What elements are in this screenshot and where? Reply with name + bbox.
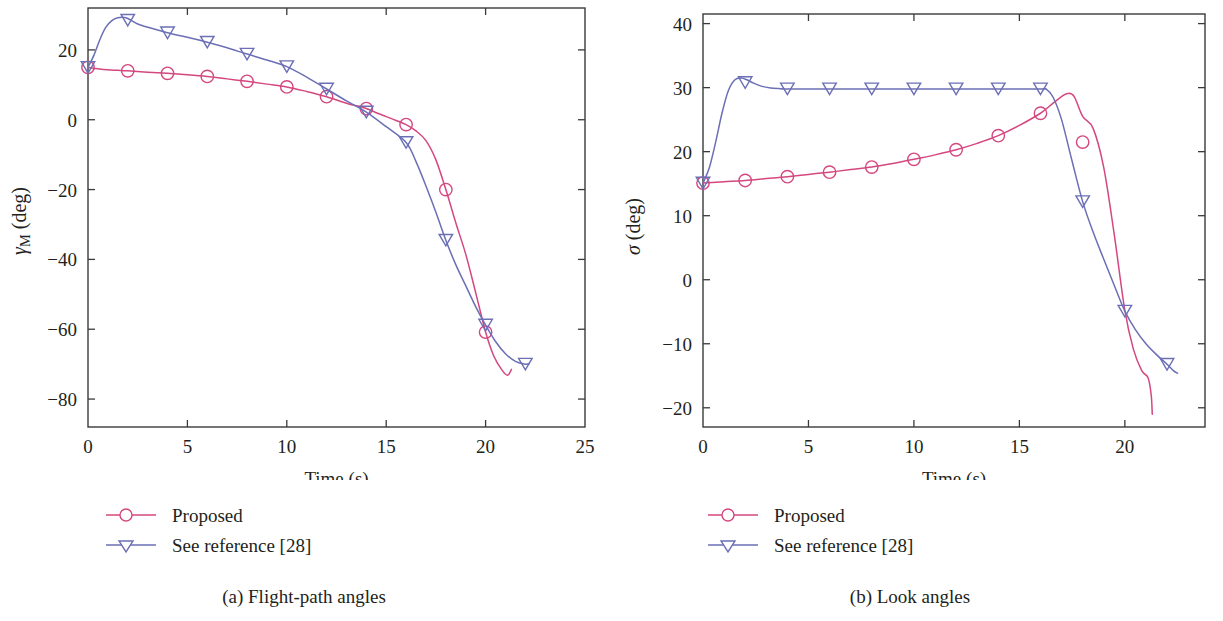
x-tick-label: 0 (698, 436, 708, 457)
data-marker-triangle (121, 14, 134, 25)
series-line (703, 78, 1178, 373)
y-tick-label: −10 (662, 334, 692, 355)
y-tick-label: 40 (673, 14, 692, 35)
legend-a: Proposed See reference [28] (104, 500, 311, 560)
legend-swatch-triangle-a (104, 533, 158, 557)
x-tick-label: 20 (1115, 436, 1134, 457)
y-axis-subscript-a: M (17, 234, 33, 247)
y-axis-label-a: γM (deg) (8, 156, 34, 286)
y-axis-symbol-b: σ (622, 245, 644, 255)
flight-path-angle-plot: 0510152025−80−60−40−20020Time (s) (0, 0, 611, 480)
legend-label-proposed-b: Proposed (774, 506, 845, 525)
y-axis-label-b: σ (deg) (622, 162, 645, 292)
legend-item-reference-b[interactable]: See reference [28] (706, 530, 913, 560)
data-marker-circle (1076, 136, 1088, 148)
x-tick-label: 5 (183, 436, 193, 457)
x-tick-label: 15 (377, 436, 396, 457)
legend-swatch-circle-a (104, 503, 158, 527)
series-proposed (82, 61, 512, 375)
y-tick-label: −20 (47, 180, 77, 201)
series-see-reference-28 (696, 77, 1177, 373)
series-line (88, 17, 529, 364)
legend-label-reference-a: See reference [28] (172, 536, 311, 555)
legend-swatch-circle-b (706, 503, 760, 527)
series-line (88, 67, 511, 375)
legend-item-reference-a[interactable]: See reference [28] (104, 530, 311, 560)
legend-item-proposed-b[interactable]: Proposed (706, 500, 913, 530)
y-tick-label: 0 (68, 110, 78, 131)
legend-label-reference-b: See reference [28] (774, 536, 913, 555)
caption-b: (b) Look angles (680, 586, 1140, 608)
x-tick-label: 15 (1010, 436, 1029, 457)
series-see-reference-28 (81, 14, 532, 369)
series-line (703, 93, 1152, 414)
y-axis-unit-a: (deg) (8, 187, 30, 234)
x-tick-label: 10 (277, 436, 296, 457)
legend-item-proposed-a[interactable]: Proposed (104, 500, 311, 530)
y-axis-symbol-a: γ (8, 247, 30, 255)
legend-label-proposed-a: Proposed (172, 506, 243, 525)
x-tick-label: 0 (83, 436, 93, 457)
y-tick-label: −20 (662, 398, 692, 419)
legend-swatch-triangle-b (706, 533, 760, 557)
x-tick-label: 25 (576, 436, 595, 457)
y-tick-label: 20 (673, 142, 692, 163)
x-axis-title: Time (s) (922, 468, 986, 480)
y-tick-label: −80 (47, 389, 77, 410)
legend-b: Proposed See reference [28] (706, 500, 913, 560)
caption-a: (a) Flight-path angles (74, 586, 534, 608)
y-tick-label: 20 (58, 40, 77, 61)
y-tick-label: 0 (683, 270, 693, 291)
series-proposed (697, 93, 1152, 414)
x-axis-title: Time (s) (304, 468, 368, 480)
plot-frame (703, 14, 1205, 427)
y-axis-unit-b: (deg) (622, 198, 644, 245)
chart-panel-b: 05101520−20−10010203040Time (s) σ (deg) … (612, 0, 1223, 621)
x-tick-label: 5 (804, 436, 814, 457)
y-tick-label: −40 (47, 249, 77, 270)
figure-root: 0510152025−80−60−40−20020Time (s) γM (de… (0, 0, 1223, 621)
x-tick-label: 10 (904, 436, 923, 457)
y-tick-label: 30 (673, 78, 692, 99)
look-angle-plot: 05101520−20−10010203040Time (s) (612, 0, 1223, 480)
y-tick-label: 10 (673, 206, 692, 227)
x-tick-label: 20 (476, 436, 495, 457)
chart-panel-a: 0510152025−80−60−40−20020Time (s) γM (de… (0, 0, 611, 621)
y-tick-label: −60 (47, 319, 77, 340)
